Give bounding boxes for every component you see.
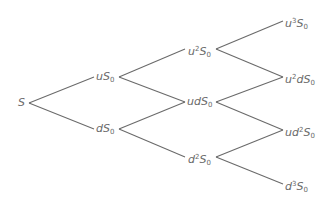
node-d2-s0: d2S0 [188,151,211,169]
node-base: ud [187,95,201,108]
edge-uu-uuu [216,21,283,49]
node-u3-s0: u3S0 [285,15,308,33]
edge-dd-udd [216,130,283,157]
node-var: S [103,122,110,135]
edge-uu-uud [216,49,283,77]
node-d-s0: dS0 [96,123,114,138]
tree-edges [0,0,330,206]
edge-s-u [29,77,94,103]
edge-d-dd [119,129,185,157]
node-base: u [285,73,292,86]
edge-ud-uud [216,77,283,102]
node-base: u [285,17,292,30]
node-base: ud [285,126,299,139]
node-base: d [188,153,195,166]
node-sub: 0 [208,101,212,109]
node-sub: 0 [303,186,307,194]
node-var: S [201,95,208,108]
edge-u-uu [119,49,185,77]
node-u2-s0: u2S0 [188,43,211,61]
node-base: S [18,96,25,109]
node-root-s: S [18,97,25,109]
edge-d-ud [119,102,185,129]
node-sub: 0 [303,23,307,31]
edge-u-ud [119,77,185,102]
node-ud-s0: udS0 [187,96,212,111]
edge-dd-ddd [216,157,283,184]
node-ud2-s0: ud2S0 [285,124,315,142]
node-sub: 0 [310,79,314,87]
node-sub: 0 [310,132,314,140]
node-base: u [96,70,103,83]
node-sub: 0 [110,76,114,84]
node-sub: 0 [206,159,210,167]
node-sub: 0 [206,51,210,59]
node-base: d [96,122,103,135]
node-var: S [103,70,110,83]
node-d3-s0: d3S0 [285,178,308,196]
edge-s-d [29,103,94,129]
node-u2d-s0: u2dS0 [285,71,315,89]
node-u-s0: uS0 [96,71,114,86]
edge-ud-udd [216,102,283,130]
node-sub: 0 [110,128,114,136]
node-base: d [285,180,292,193]
node-base: u [188,45,195,58]
